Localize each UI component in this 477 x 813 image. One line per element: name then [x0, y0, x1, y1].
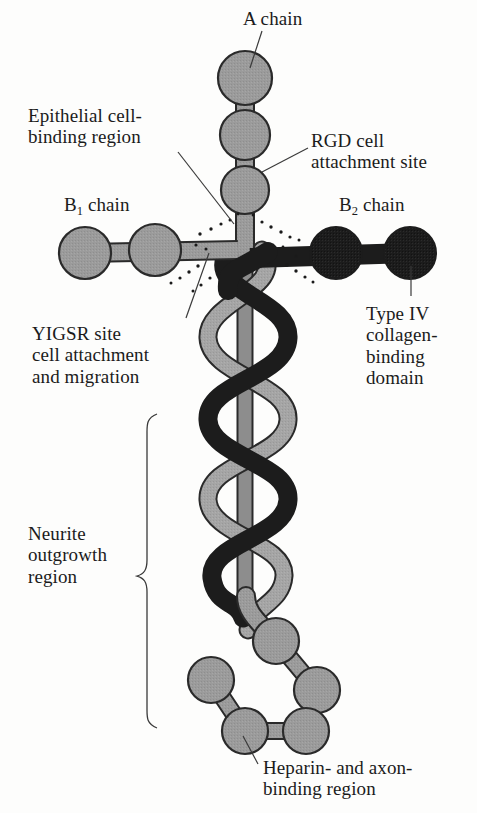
- b1-chain-arm: [59, 224, 238, 279]
- figure-canvas: A chain Epithelial cell- binding region …: [0, 0, 477, 813]
- globule-heparin-3: [283, 708, 329, 754]
- label-a-chain: A chain: [243, 8, 302, 29]
- label-b2-chain-prefix: B: [339, 194, 352, 215]
- label-neurite-outgrowth-region: Neurite outgrowth region: [28, 523, 107, 587]
- label-yigsr-site: YIGSR site cell attachment and migration: [32, 323, 149, 387]
- globule-b1-chain-2: [129, 224, 181, 276]
- globule-a-chain-1: [218, 51, 272, 105]
- label-rgd-cell-attachment-site: RGD cell attachment site: [311, 130, 427, 173]
- cluster-globules: [188, 618, 340, 754]
- label-b1-chain-prefix: B: [64, 194, 77, 215]
- globule-b2-chain-1: [310, 227, 362, 279]
- globule-heparin-4: [222, 708, 268, 754]
- globule-heparin-2: [294, 667, 340, 713]
- globule-heparin-1: [253, 618, 299, 664]
- leader-yigsr: [186, 253, 209, 318]
- globule-b1-chain-1: [59, 227, 111, 279]
- label-type-iv-collagen-binding-domain: Type IV collagen- binding domain: [366, 303, 438, 389]
- triple-helix-region: [208, 250, 288, 638]
- label-heparin-axon-binding-region: Heparin- and axon- binding region: [263, 757, 413, 800]
- label-b1-chain-suffix: chain: [83, 194, 130, 215]
- globule-a-chain-2: [220, 110, 270, 160]
- label-b2-chain: B2 chain: [339, 194, 405, 218]
- neurite-bracket: [137, 414, 157, 728]
- label-b1-chain: B1 chain: [64, 194, 130, 218]
- leader-rgd: [262, 148, 308, 172]
- heparin-axon-cluster: [188, 618, 340, 754]
- label-b2-chain-suffix: chain: [358, 194, 405, 215]
- globule-heparin-5: [188, 657, 234, 703]
- globule-a-chain-3: [221, 166, 269, 214]
- a-chain-arm: [218, 51, 272, 262]
- globule-b2-chain-2: [384, 227, 436, 279]
- label-epithelial-cell-binding-region: Epithelial cell- binding region: [28, 105, 142, 148]
